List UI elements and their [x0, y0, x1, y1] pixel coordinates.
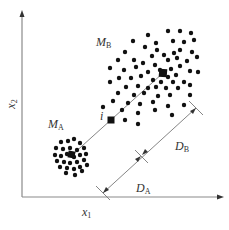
- x-axis-arrow-icon: [217, 195, 224, 200]
- cluster-b-points: [101, 29, 200, 126]
- distance-db-label: DB: [175, 140, 189, 154]
- x-axis-label: x1: [82, 206, 91, 220]
- cluster-a-center-marker: [67, 150, 75, 158]
- y-axis-arrow-icon: [20, 10, 25, 17]
- cluster-b-label: MB: [96, 36, 111, 50]
- cluster-distance-diagram: [0, 0, 229, 230]
- point-i-marker: [108, 117, 115, 124]
- distance-da-label: DA: [136, 182, 150, 196]
- center-connecting-line: [72, 73, 163, 155]
- cluster-a-label: MA: [48, 118, 64, 132]
- y-axis-label: x2: [5, 99, 19, 108]
- cluster-b-center-marker: [159, 69, 168, 78]
- point-i-label: i: [100, 110, 103, 122]
